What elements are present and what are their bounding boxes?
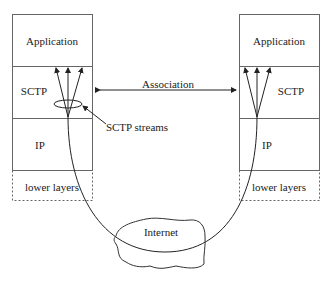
left-ip-layer: [13, 119, 93, 171]
left-application-label: Application: [26, 35, 78, 47]
right-sctp-streams: [245, 68, 270, 117]
left-ip-label: IP: [35, 139, 45, 151]
sctp-streams-label: SCTP streams: [106, 121, 168, 133]
right-lower-layers-label: lower layers: [252, 181, 306, 193]
right-application-label: Application: [253, 35, 305, 47]
association-label: Association: [142, 78, 194, 90]
left-sctp-streams: [54, 68, 82, 117]
right-ip-label: IP: [262, 139, 272, 151]
left-sctp-label: SCTP: [21, 85, 47, 97]
right-ip-layer: [240, 119, 320, 171]
left-lower-layers-label: lower layers: [25, 181, 79, 193]
internet-label: Internet: [144, 226, 178, 238]
right-sctp-label: SCTP: [278, 85, 304, 97]
streams-pointer: [83, 106, 106, 124]
